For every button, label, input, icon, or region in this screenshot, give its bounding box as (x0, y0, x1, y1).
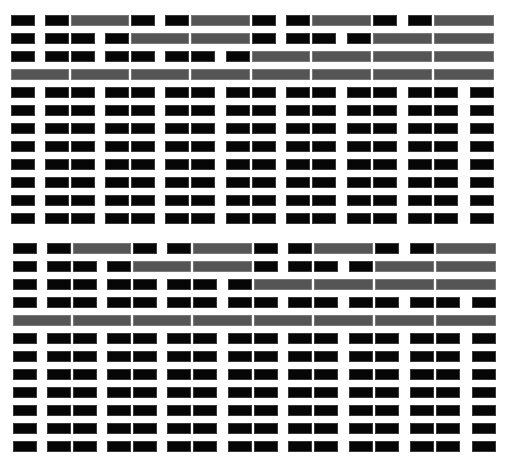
black-block (410, 369, 434, 380)
black-block (410, 387, 434, 398)
gray-bar (133, 261, 191, 272)
black-block (434, 87, 458, 98)
black-block (288, 369, 312, 380)
black-block (226, 159, 250, 170)
black-block (226, 213, 250, 224)
black-block (133, 333, 157, 344)
black-block (254, 297, 278, 308)
gray-bar (314, 315, 373, 326)
black-block (252, 33, 276, 44)
pattern-row (0, 387, 506, 398)
black-block (349, 441, 373, 452)
black-block (375, 441, 399, 452)
black-block (71, 123, 95, 134)
black-block (105, 51, 129, 62)
black-block (286, 15, 310, 26)
black-block (167, 423, 191, 434)
black-block (165, 177, 189, 188)
black-block (193, 333, 217, 344)
black-block (470, 159, 494, 170)
gray-bar (131, 33, 189, 44)
black-block (47, 297, 71, 308)
black-block (472, 405, 496, 416)
gray-bar (73, 315, 131, 326)
black-block (472, 423, 496, 434)
black-block (408, 123, 432, 134)
black-block (73, 333, 97, 344)
pattern-row (0, 333, 506, 344)
gray-bar (373, 51, 432, 62)
black-block (286, 195, 310, 206)
black-block (107, 297, 131, 308)
black-block (107, 423, 131, 434)
black-block (193, 423, 217, 434)
black-block (45, 213, 69, 224)
gray-bar (312, 51, 371, 62)
black-block (165, 15, 189, 26)
black-block (191, 105, 215, 116)
black-block (314, 333, 338, 344)
black-block (73, 279, 97, 290)
black-block (133, 369, 157, 380)
black-block (45, 195, 69, 206)
black-block (47, 423, 71, 434)
gray-bar (133, 315, 191, 326)
black-block (107, 261, 131, 272)
black-block (228, 405, 252, 416)
black-block (45, 123, 69, 134)
black-block (45, 177, 69, 188)
black-block (11, 213, 35, 224)
black-block (13, 261, 37, 272)
black-block (47, 441, 71, 452)
black-block (373, 213, 397, 224)
black-block (470, 87, 494, 98)
black-block (13, 441, 37, 452)
black-block (228, 423, 252, 434)
black-block (193, 405, 217, 416)
black-block (254, 333, 278, 344)
black-block (314, 387, 338, 398)
black-block (228, 387, 252, 398)
black-block (165, 159, 189, 170)
black-block (472, 351, 496, 362)
black-block (193, 369, 217, 380)
black-block (286, 159, 310, 170)
black-block (349, 333, 373, 344)
black-block (375, 369, 399, 380)
gray-bar (71, 69, 129, 80)
black-block (167, 369, 191, 380)
black-block (47, 261, 71, 272)
black-block (349, 261, 373, 272)
black-block (373, 177, 397, 188)
black-block (288, 261, 312, 272)
black-block (436, 405, 460, 416)
black-block (436, 387, 460, 398)
black-block (191, 159, 215, 170)
black-block (73, 387, 97, 398)
black-block (375, 297, 399, 308)
black-block (105, 141, 129, 152)
black-block (254, 351, 278, 362)
black-block (71, 87, 95, 98)
black-block (470, 105, 494, 116)
gray-bar (193, 261, 252, 272)
black-block (314, 369, 338, 380)
black-block (226, 51, 250, 62)
black-block (347, 33, 371, 44)
black-block (434, 105, 458, 116)
gray-bar (191, 69, 250, 80)
black-block (167, 297, 191, 308)
black-block (434, 177, 458, 188)
pattern-row (0, 243, 506, 254)
gray-bar (434, 15, 494, 26)
black-block (226, 87, 250, 98)
pattern-row (0, 279, 506, 290)
black-block (71, 213, 95, 224)
black-block (107, 369, 131, 380)
pattern-row (0, 297, 506, 308)
black-block (472, 441, 496, 452)
black-block (13, 279, 37, 290)
black-block (131, 177, 155, 188)
black-block (167, 333, 191, 344)
black-block (133, 387, 157, 398)
